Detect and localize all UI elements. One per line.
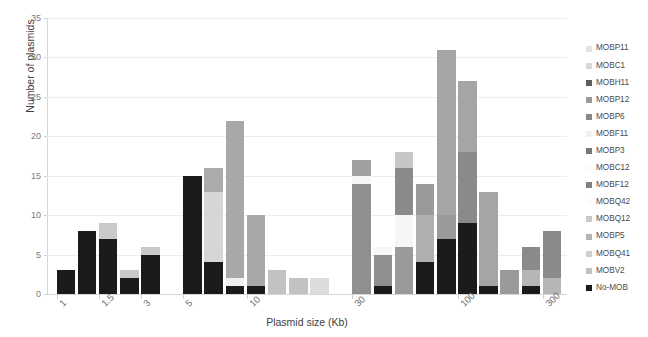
bar-segment — [204, 168, 223, 192]
legend-item-mobc1[interactable]: MOBC1 — [586, 57, 648, 74]
legend-item-mobq12[interactable]: MOBQ12 — [586, 211, 648, 228]
bar-segment — [352, 176, 371, 184]
bar — [374, 247, 393, 294]
x-axis-title: Plasmid size (Kb) — [47, 316, 567, 328]
legend-item-label: MOBH11 — [596, 79, 629, 87]
bar-segment — [458, 152, 477, 223]
y-axis-tick-label: 5 — [36, 250, 41, 260]
legend-item-mobp5[interactable]: MOBP5 — [586, 228, 648, 245]
legend-item-label: MOBC1 — [596, 62, 625, 70]
legend-swatch-icon — [586, 234, 592, 240]
legend-item-mobf11[interactable]: MOBF11 — [586, 125, 648, 142]
bar — [458, 81, 477, 294]
bar-segment — [458, 81, 477, 152]
y-axis-tick-label: 0 — [36, 289, 41, 299]
legend-item-mobh11[interactable]: MOBH11 — [586, 74, 648, 91]
bar-segment — [204, 262, 223, 294]
bar-segment — [247, 286, 266, 294]
legend-item-label: MOBC12 — [596, 164, 630, 172]
legend-item-mobq41[interactable]: MOBQ41 — [586, 245, 648, 262]
legend-swatch-icon — [586, 268, 592, 274]
bar — [268, 270, 287, 294]
bar-segment — [395, 168, 414, 215]
plot-area: 0510152025303511.5351030100300 — [47, 18, 567, 295]
legend-item-no-mob[interactable]: No-MOB — [586, 279, 648, 296]
bar-segment — [310, 278, 329, 294]
bar — [395, 152, 414, 294]
bar-segment — [479, 192, 498, 287]
y-axis-tick-mark — [44, 57, 47, 58]
bar-segment — [395, 152, 414, 168]
legend-swatch-icon — [586, 251, 592, 257]
legend-swatch-icon — [586, 148, 592, 154]
legend-swatch-icon — [586, 80, 592, 86]
bar — [500, 270, 519, 294]
bar-segment — [522, 247, 541, 271]
y-axis-tick-label: 30 — [31, 52, 41, 62]
x-axis-tick-label: 3 — [141, 297, 153, 309]
bar-segment — [226, 286, 245, 294]
legend-item-mobp6[interactable]: MOBP6 — [586, 108, 648, 125]
legend-item-mobp3[interactable]: MOBP3 — [586, 143, 648, 160]
y-axis-tick-label: 10 — [31, 210, 41, 220]
legend-item-mobp12[interactable]: MOBP12 — [586, 91, 648, 108]
bar — [141, 247, 160, 294]
legend-item-mobf12[interactable]: MOBF12 — [586, 177, 648, 194]
bar-segment — [543, 231, 562, 278]
bar-segment — [99, 223, 118, 239]
bar — [437, 50, 456, 294]
bar-segment — [395, 215, 414, 247]
bar-segment — [289, 278, 308, 294]
x-axis-tick-label: 5 — [183, 297, 195, 309]
bar-segment — [374, 247, 393, 255]
plasmid-size-distribution-chart: Number of plasmids Plasmid size (Kb) 051… — [0, 0, 648, 337]
y-axis-tick-mark — [44, 215, 47, 216]
legend-item-label: MOBP3 — [596, 147, 625, 155]
bar-segment — [500, 270, 519, 294]
bar-segment — [141, 247, 160, 255]
bar — [78, 231, 97, 294]
x-axis-tick-label: 1 — [57, 297, 69, 309]
y-axis-tick-mark — [44, 255, 47, 256]
bar-segment — [120, 278, 139, 294]
bar-segment — [416, 184, 435, 216]
y-axis-tick-mark — [44, 136, 47, 137]
x-axis-tick-mark — [141, 295, 142, 299]
bar-segment — [204, 192, 223, 263]
bar-segment — [141, 255, 160, 294]
legend-item-label: MOBQ12 — [596, 215, 630, 223]
bar-segment — [226, 121, 245, 279]
gridline — [47, 18, 567, 19]
legend-item-mobv2[interactable]: MOBV2 — [586, 262, 648, 279]
gridline — [47, 176, 567, 177]
bar-segment — [78, 231, 97, 294]
bar-segment — [437, 50, 456, 216]
legend-item-mobq42[interactable]: MOBQ42 — [586, 194, 648, 211]
bar-segment — [226, 278, 245, 286]
x-axis-tick-mark — [99, 295, 100, 299]
bar-segment — [374, 286, 393, 294]
x-axis-tick-mark — [247, 295, 248, 299]
y-axis-tick-label: 35 — [31, 13, 41, 23]
legend-item-label: MOBP6 — [596, 113, 625, 121]
x-axis-tick-mark — [458, 295, 459, 299]
legend: MOBP11MOBC1MOBH11MOBP12MOBP6MOBF11MOBP3M… — [586, 40, 648, 296]
gridline — [47, 57, 567, 58]
legend-swatch-icon — [586, 285, 592, 291]
y-axis-tick-mark — [44, 176, 47, 177]
bar — [479, 192, 498, 295]
bar — [543, 231, 562, 294]
x-axis-tick-mark — [183, 295, 184, 299]
bar-segment — [57, 270, 76, 294]
bar-segment — [183, 176, 202, 294]
bar — [99, 223, 118, 294]
legend-item-mobp11[interactable]: MOBP11 — [586, 40, 648, 57]
y-axis-tick-mark — [44, 294, 47, 295]
bar-segment — [479, 286, 498, 294]
x-axis-tick-label: 10 — [247, 294, 262, 309]
legend-item-label: MOBF12 — [596, 181, 629, 189]
legend-item-mobc12[interactable]: MOBC12 — [586, 160, 648, 177]
legend-swatch-icon — [586, 216, 592, 222]
legend-swatch-icon — [586, 182, 592, 188]
legend-swatch-icon — [586, 199, 592, 205]
